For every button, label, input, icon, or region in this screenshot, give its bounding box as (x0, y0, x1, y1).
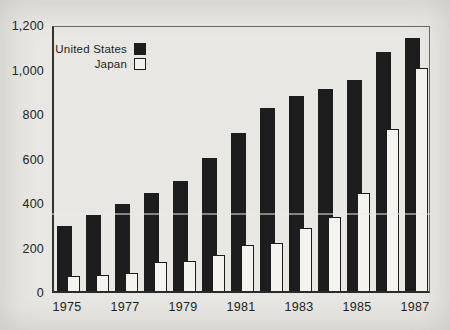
legend: United States Japan (55, 42, 146, 70)
bar-japan-1975 (67, 276, 80, 291)
x-axis-tick-label: 1981 (219, 300, 263, 314)
bar-japan-1981 (241, 245, 254, 291)
x-axis-tick-label: 1985 (335, 300, 379, 314)
filled-square-swatch-icon (134, 43, 146, 55)
legend-label-japan: Japan (95, 58, 127, 70)
y-axis-tick-label: 800 (0, 108, 44, 122)
bar-japan-1986 (386, 129, 399, 291)
bar-japan-1985 (357, 193, 370, 291)
y-axis-tick-label: 1,000 (0, 64, 44, 78)
bar-japan-1979 (183, 261, 196, 291)
bar-japan-1983 (299, 228, 312, 291)
x-axis-tick-label: 1975 (45, 300, 89, 314)
bar-japan-1980 (212, 255, 225, 291)
bar-japan-1976 (96, 275, 109, 292)
open-square-swatch-icon (134, 58, 146, 70)
x-axis-tick-label: 1987 (393, 300, 437, 314)
y-axis-tick-label: 200 (0, 242, 44, 256)
bar-japan-1982 (270, 243, 283, 291)
bar-japan-1987 (415, 68, 428, 291)
legend-item-japan: Japan (95, 57, 146, 70)
bar-japan-1984 (328, 217, 341, 291)
legend-label-united-states: United States (55, 43, 127, 55)
y-axis-tick-label: 600 (0, 153, 44, 167)
legend-item-united-states: United States (55, 42, 146, 55)
x-axis-tick-label: 1977 (103, 300, 147, 314)
bar-japan-1977 (125, 273, 138, 291)
x-axis-tick-label: 1983 (277, 300, 321, 314)
y-axis-tick-label: 400 (0, 197, 44, 211)
y-axis-tick-label: 0 (0, 286, 44, 300)
y-axis-tick-label: 1,200 (0, 19, 44, 33)
x-axis-tick-label: 1979 (161, 300, 205, 314)
bar-japan-1978 (154, 262, 167, 291)
bar-chart-figure: United States Japan 02004006008001,0001,… (0, 0, 450, 330)
